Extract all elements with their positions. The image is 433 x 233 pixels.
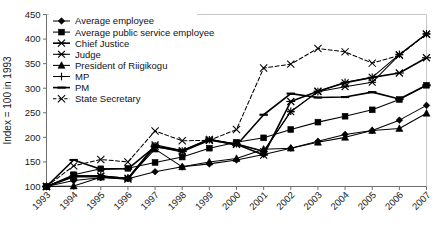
marker-square bbox=[179, 154, 185, 160]
y-tick-label: 400 bbox=[25, 33, 41, 44]
marker-square bbox=[152, 160, 158, 166]
x-tick-label: 2001 bbox=[247, 189, 270, 212]
marker-square bbox=[342, 113, 348, 119]
marker-diamond bbox=[423, 102, 430, 109]
x-tick-label: 1997 bbox=[138, 189, 161, 212]
legend-item-label: Chief Justice bbox=[75, 38, 129, 49]
chart-container: 100150200250300350400450Index = 100 in 1… bbox=[0, 0, 433, 233]
legend-item-label: MP bbox=[75, 71, 89, 82]
x-tick-label: 2003 bbox=[301, 189, 324, 212]
legend-item-label: Judge bbox=[75, 49, 101, 60]
x-tick-label: 1995 bbox=[84, 189, 107, 212]
x-tick-label: 1998 bbox=[165, 189, 188, 212]
marker-triangle bbox=[396, 125, 403, 132]
legend-item-label: Average employee bbox=[75, 15, 154, 26]
y-tick-label: 250 bbox=[25, 107, 41, 118]
line-chart: 100150200250300350400450Index = 100 in 1… bbox=[0, 0, 433, 233]
x-tick-label: 1999 bbox=[193, 189, 216, 212]
legend-item-label: State Secretary bbox=[75, 93, 141, 104]
y-tick-label: 300 bbox=[25, 83, 41, 94]
marker-diamond bbox=[152, 168, 159, 175]
y-tick-label: 450 bbox=[25, 9, 41, 20]
marker-square bbox=[59, 29, 65, 35]
legend-item-label: Average public service employee bbox=[75, 27, 214, 38]
marker-square bbox=[369, 107, 375, 113]
y-tick-label: 150 bbox=[25, 156, 41, 167]
y-tick-label: 200 bbox=[25, 132, 41, 143]
marker-square bbox=[315, 119, 321, 125]
marker-square bbox=[288, 127, 294, 133]
x-tick-label: 1994 bbox=[57, 189, 80, 212]
legend-item[interactable]: Average public service employee bbox=[53, 27, 214, 38]
x-tick-label: 2007 bbox=[410, 189, 433, 212]
chart-legend: Average employeeAverage public service e… bbox=[49, 13, 214, 107]
x-tick-label: 1993 bbox=[30, 189, 53, 212]
y-tick-label: 350 bbox=[25, 58, 41, 69]
x-tick-label: 2000 bbox=[220, 189, 243, 212]
marker-diamond bbox=[396, 117, 403, 124]
y-axis-title: Index = 100 in 1993 bbox=[2, 56, 13, 145]
x-tick-label: 2006 bbox=[383, 189, 406, 212]
x-tick-label: 2005 bbox=[355, 189, 378, 212]
x-tick-label: 2002 bbox=[274, 189, 297, 212]
x-tick-label: 1996 bbox=[111, 189, 134, 212]
marker-square bbox=[206, 145, 212, 151]
legend-item-label: PM bbox=[75, 82, 89, 93]
marker-square bbox=[261, 135, 267, 141]
x-tick-label: 2004 bbox=[328, 189, 351, 212]
y-tick-label: 100 bbox=[25, 181, 41, 192]
marker-triangle bbox=[423, 110, 430, 117]
legend-item-label: President of Riigikogu bbox=[75, 60, 167, 71]
